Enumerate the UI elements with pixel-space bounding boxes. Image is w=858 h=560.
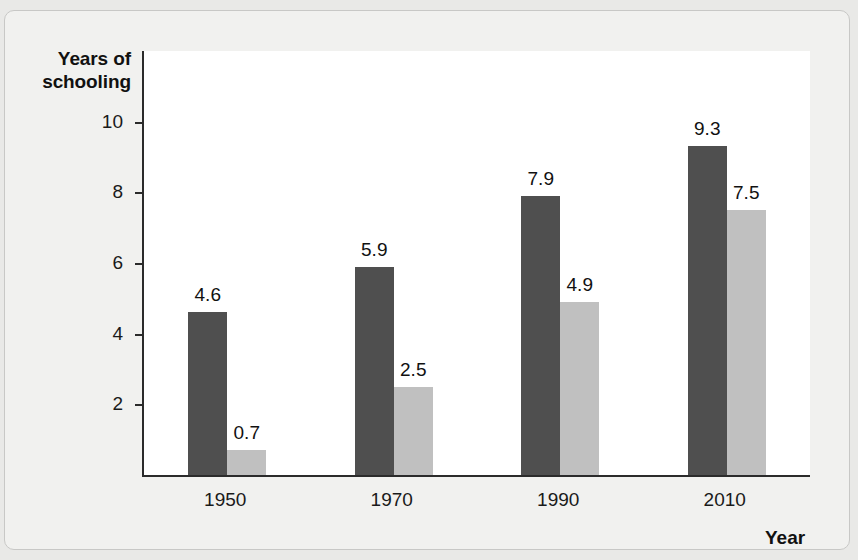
bar-value-label: 4.6 — [195, 284, 221, 306]
y-axis-tick-label: 2 — [75, 393, 123, 415]
bar-value-label: 7.5 — [733, 182, 759, 204]
y-axis-tick-label: 8 — [75, 181, 123, 203]
y-axis-tick — [135, 404, 144, 406]
bar-value-label: 2.5 — [400, 359, 426, 381]
plot-area: 4.60.75.92.57.94.99.37.5 — [142, 51, 810, 477]
bar-value-label: 0.7 — [234, 422, 260, 444]
y-axis-tick-label: 4 — [75, 323, 123, 345]
bar-argentina-1950 — [188, 312, 227, 475]
x-axis-tick-label: 1970 — [371, 489, 413, 511]
x-axis-tick-label: 1990 — [537, 489, 579, 511]
x-axis-tick-label: 1950 — [204, 489, 246, 511]
bar-value-label: 5.9 — [361, 239, 387, 261]
y-axis-tick-label: 6 — [75, 252, 123, 274]
y-axis-tick — [135, 192, 144, 194]
y-axis-tick-label: 10 — [75, 111, 123, 133]
bar-china-1950 — [227, 450, 266, 475]
x-axis-title: Year — [765, 527, 805, 549]
y-axis-tick-labels: 246810 — [75, 51, 123, 477]
bar-value-label: 4.9 — [567, 274, 593, 296]
bar-china-2010 — [727, 210, 766, 475]
bar-china-1990 — [560, 302, 599, 475]
bar-value-label: 7.9 — [528, 168, 554, 190]
bar-value-label: 9.3 — [694, 118, 720, 140]
y-axis-tick — [135, 334, 144, 336]
chart-figure-frame: Years of schooling Argentina China 24681… — [4, 10, 850, 550]
bar-china-1970 — [394, 387, 433, 475]
x-axis-tick-label: 2010 — [704, 489, 746, 511]
y-axis-tick — [135, 263, 144, 265]
bar-argentina-1990 — [521, 196, 560, 475]
bar-argentina-2010 — [688, 146, 727, 475]
bar-argentina-1970 — [355, 267, 394, 475]
x-axis-tick-labels: 1950197019902010 — [142, 489, 810, 517]
y-axis-tick — [135, 122, 144, 124]
